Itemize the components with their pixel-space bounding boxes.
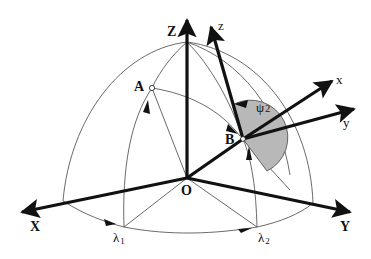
label-B: B bbox=[225, 132, 234, 147]
diagram-canvas: Z X Y O A B z x y ψ2 λ1 λ2 bbox=[0, 0, 371, 259]
equator-arc-right bbox=[257, 203, 313, 227]
label-Y: Y bbox=[340, 219, 350, 234]
label-lambda1: λ1 bbox=[113, 230, 125, 246]
meridian-lambda1 bbox=[124, 42, 187, 227]
label-O: O bbox=[181, 183, 192, 198]
line-O-B bbox=[187, 139, 243, 178]
point-B bbox=[241, 137, 246, 142]
axis-X bbox=[22, 178, 187, 212]
label-psi2: ψ2 bbox=[256, 100, 270, 115]
line-O-A bbox=[152, 88, 187, 178]
equator-arc-mid bbox=[124, 227, 257, 233]
label-local-y: y bbox=[343, 115, 350, 130]
point-A bbox=[149, 85, 154, 90]
label-local-z: z bbox=[218, 18, 224, 33]
arc-arrow-lambda2 bbox=[238, 228, 252, 233]
equator-arc-left bbox=[63, 201, 124, 227]
sphere-diagram: Z X Y O A B z x y ψ2 λ1 λ2 bbox=[0, 0, 371, 259]
label-local-x: x bbox=[336, 72, 343, 87]
label-lambda2: λ2 bbox=[258, 230, 270, 246]
arc-arrow-lambda1 bbox=[104, 219, 116, 226]
label-X: X bbox=[30, 219, 40, 234]
label-Z: Z bbox=[167, 24, 176, 39]
label-A: A bbox=[134, 79, 145, 94]
